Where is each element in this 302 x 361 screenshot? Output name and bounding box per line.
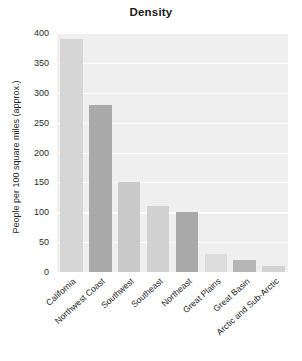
y-axis-tick-label: 250 xyxy=(34,118,49,128)
density-bar-chart: Density People per 100 square miles (app… xyxy=(0,0,302,361)
y-axis-tick-label: 150 xyxy=(34,177,49,187)
y-axis-tick-labels: 050100150200250300350400 xyxy=(0,33,53,272)
bar xyxy=(205,254,228,272)
y-axis-tick-label: 300 xyxy=(34,88,49,98)
y-axis-tick-label: 350 xyxy=(34,58,49,68)
y-axis-tick-label: 0 xyxy=(44,267,49,277)
bar xyxy=(233,260,256,272)
y-axis-tick-label: 200 xyxy=(34,148,49,158)
chart-title: Density xyxy=(0,6,302,18)
y-axis-tick-label: 50 xyxy=(39,237,49,247)
y-axis-tick-label: 100 xyxy=(34,207,49,217)
y-axis-tick-label: 400 xyxy=(34,28,49,38)
bar xyxy=(176,212,199,272)
bar xyxy=(118,182,141,272)
bar xyxy=(147,206,170,272)
gridline xyxy=(57,33,288,34)
x-axis-tick-labels: CaliforniaNorthwest CoastSouthwestSouthe… xyxy=(57,272,288,361)
plot-area xyxy=(57,33,288,272)
gridline xyxy=(57,63,288,64)
bar xyxy=(60,39,83,272)
bar xyxy=(89,105,112,272)
gridline xyxy=(57,93,288,94)
